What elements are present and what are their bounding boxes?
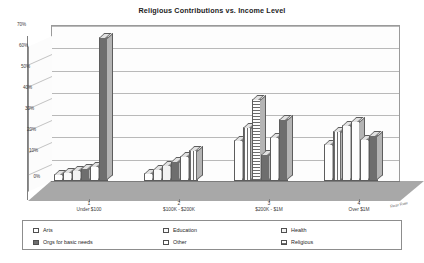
- chart-page: Religious Contributions vs. Income Level…: [0, 0, 424, 263]
- chart-title: Religious Contributions vs. Income Level: [0, 6, 424, 15]
- bar-2-religious[interactable]: [189, 150, 198, 181]
- x-group-number-2: 2: [144, 200, 214, 206]
- legend-column-1: Arts Orgs for basic needs: [33, 224, 93, 248]
- y-tick-label-50: 50%: [4, 64, 30, 69]
- bar-1-arts[interactable]: [54, 174, 63, 181]
- x-axis-label-3: $200K - $1M: [234, 207, 304, 212]
- bar-2-arts[interactable]: [144, 173, 153, 181]
- gridline-70: [52, 26, 399, 27]
- legend-label-orgs-for-basic-needs: Orgs for basic needs: [43, 239, 93, 245]
- bar-2-orgs[interactable]: [171, 161, 180, 181]
- bar-4-other[interactable]: [360, 139, 369, 181]
- bar-group-2: [138, 31, 218, 181]
- bar-side-face: [287, 115, 293, 180]
- y-tick-label-0: 0%: [14, 174, 40, 179]
- legend-item-education[interactable]: Education: [163, 224, 197, 236]
- legend-item-religious[interactable]: Religious: [281, 236, 313, 248]
- x-group-number-4: 4: [324, 200, 394, 206]
- y-tick-label-20: 20%: [10, 127, 36, 132]
- bar-2-other[interactable]: [180, 156, 189, 181]
- bar-1-religious[interactable]: [99, 37, 108, 181]
- legend-swatch-orgs-icon: [33, 240, 39, 245]
- x-axis-label-2: $100K - $200K: [144, 207, 214, 212]
- bar-1-other[interactable]: [90, 166, 99, 181]
- bar-4-religious[interactable]: [369, 135, 378, 181]
- legend-item-orgs-for-basic-needs[interactable]: Orgs for basic needs: [33, 236, 93, 248]
- y-tick-label-40: 40%: [6, 85, 32, 90]
- bar-side-face: [107, 33, 113, 180]
- bar-group-4: [318, 31, 398, 181]
- bar-2-education[interactable]: [153, 169, 162, 181]
- legend-swatch-education-icon: [163, 228, 169, 233]
- bar-4-health[interactable]: [342, 125, 351, 181]
- x-axis-label-1: Under $100: [54, 207, 124, 212]
- bar-2-health[interactable]: [162, 165, 171, 181]
- legend-label-religious: Religious: [291, 239, 313, 245]
- bar-3-orgs[interactable]: [261, 154, 270, 181]
- legend-swatch-health-icon: [281, 228, 287, 233]
- bar-3-education[interactable]: [243, 127, 252, 181]
- legend-item-health[interactable]: Health: [281, 224, 313, 236]
- x-group-number-1: 1: [54, 200, 124, 206]
- chart-floor-wedge: [400, 181, 424, 201]
- x-group-number-3: 3: [234, 200, 304, 206]
- plot-area: 70% 60% 50% 40% 30% 20% 10% 0%: [18, 22, 410, 200]
- bar-3-arts[interactable]: [234, 140, 243, 181]
- chart-floor-top-edge: [51, 181, 400, 182]
- legend-label-arts: Arts: [43, 227, 53, 233]
- bar-3-other[interactable]: [270, 137, 279, 181]
- bar-group-1: [48, 31, 128, 181]
- chart-legend: Arts Orgs for basic needs Education Othe…: [22, 220, 402, 250]
- legend-item-arts[interactable]: Arts: [33, 224, 93, 236]
- bar-1-education[interactable]: [63, 172, 72, 181]
- legend-label-health: Health: [291, 227, 307, 233]
- bar-3-health[interactable]: [252, 99, 261, 181]
- legend-column-2: Education Other: [163, 224, 197, 248]
- bar-1-orgs[interactable]: [81, 168, 90, 181]
- legend-item-other[interactable]: Other: [163, 236, 197, 248]
- y-tick-label-60: 60%: [2, 43, 28, 48]
- legend-label-other: Other: [173, 239, 186, 245]
- y-tick-label-10: 10%: [12, 148, 38, 153]
- bar-4-education[interactable]: [333, 131, 342, 181]
- bar-3-religious[interactable]: [279, 119, 288, 181]
- legend-swatch-arts-icon: [33, 228, 39, 233]
- bar-side-face: [197, 146, 203, 180]
- bar-group-3: [228, 31, 308, 181]
- x-axis-label-4: Over $1M: [324, 207, 394, 212]
- y-tick-label-70: 70%: [0, 22, 26, 27]
- bar-side-face: [377, 131, 383, 180]
- y-tick-label-30: 30%: [8, 106, 34, 111]
- chart-floor: [28, 181, 400, 201]
- legend-column-3: Health Religious: [281, 224, 313, 248]
- legend-label-education: Education: [173, 227, 197, 233]
- legend-swatch-other-icon: [163, 240, 169, 245]
- bar-4-orgs[interactable]: [351, 121, 360, 181]
- legend-swatch-religious-icon: [281, 240, 287, 245]
- bar-4-arts[interactable]: [324, 144, 333, 181]
- bar-1-health[interactable]: [72, 170, 81, 181]
